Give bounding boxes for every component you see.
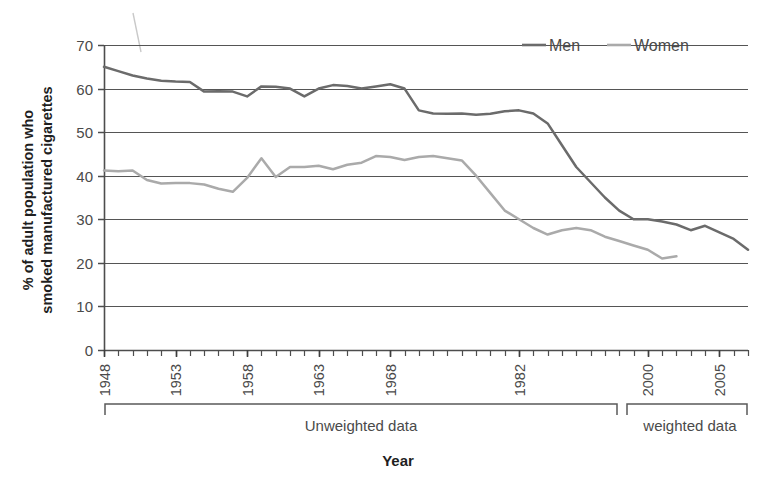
smoking-prevalence-line-chart: 010203040506070 194819531958196319681982… bbox=[0, 0, 766, 490]
x-tick-label: 2000 bbox=[640, 364, 656, 396]
y-tick-label: 70 bbox=[76, 37, 93, 54]
y-tick-label: 10 bbox=[76, 298, 93, 315]
y-tick-label: 0 bbox=[85, 342, 93, 359]
x-tick-label: 1953 bbox=[168, 364, 184, 396]
y-tick-label: 40 bbox=[76, 168, 93, 185]
y-tick-label: 30 bbox=[76, 211, 93, 228]
x-tick-label: 2005 bbox=[712, 364, 728, 396]
y-tick-label: 20 bbox=[76, 255, 93, 272]
y-axis-title-line2: smoked manufactured cigarettes bbox=[39, 86, 55, 313]
weighted-data-label: weighted data bbox=[642, 417, 737, 434]
x-tick-label: 1948 bbox=[97, 364, 113, 396]
legend-label-women: Women bbox=[634, 37, 689, 54]
x-tick-label: 1963 bbox=[311, 364, 327, 396]
x-tick-label: 1982 bbox=[512, 364, 528, 396]
legend-label-men: Men bbox=[549, 37, 580, 54]
y-tick-label: 60 bbox=[76, 81, 93, 98]
x-axis-title: Year bbox=[382, 452, 414, 469]
unweighted-data-label: Unweighted data bbox=[305, 417, 418, 434]
y-axis-title-line1: % of adult population who bbox=[20, 110, 36, 291]
chart-figure: 010203040506070 194819531958196319681982… bbox=[0, 0, 766, 490]
y-tick-label: 50 bbox=[76, 124, 93, 141]
x-tick-label: 1968 bbox=[383, 364, 399, 396]
x-tick-label: 1958 bbox=[240, 364, 256, 396]
